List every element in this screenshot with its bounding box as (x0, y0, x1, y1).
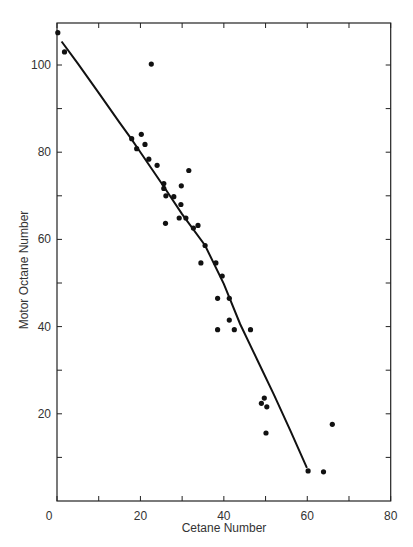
data-point (264, 404, 269, 409)
data-point (232, 327, 237, 332)
data-point (177, 215, 182, 220)
data-point (191, 226, 196, 231)
data-point (134, 146, 139, 151)
data-point (179, 183, 184, 188)
data-point (248, 327, 253, 332)
x-tick-label: 80 (384, 509, 398, 523)
y-tick-label: 80 (38, 145, 52, 159)
data-point (263, 430, 268, 435)
fit-line-path (62, 42, 307, 468)
data-point (129, 136, 134, 141)
data-point (149, 62, 154, 67)
data-point (259, 401, 264, 406)
data-point (203, 243, 208, 248)
x-tick-label: 20 (134, 509, 148, 523)
data-point (142, 142, 147, 147)
x-tick-label: 60 (301, 509, 315, 523)
data-point (62, 49, 67, 54)
scatter-chart: 020406080 20406080100 Cetane Number Moto… (0, 0, 413, 547)
data-point (161, 181, 166, 186)
data-point (330, 422, 335, 427)
y-tick-label: 60 (38, 232, 52, 246)
data-points (55, 30, 335, 474)
data-point (195, 223, 200, 228)
data-point (215, 296, 220, 301)
data-point (163, 193, 168, 198)
y-tick-label: 100 (31, 58, 51, 72)
data-point (227, 318, 232, 323)
data-point (139, 132, 144, 137)
fitted-curve (62, 42, 307, 468)
data-point (146, 157, 151, 162)
data-point (183, 215, 188, 220)
data-point (227, 296, 232, 301)
x-tick-label: 0 (46, 509, 53, 523)
data-point (55, 30, 60, 35)
x-axis-ticks: 020406080 (46, 23, 398, 523)
y-tick-label: 40 (38, 320, 52, 334)
data-point (213, 260, 218, 265)
data-point (306, 468, 311, 473)
data-point (321, 469, 326, 474)
y-axis-label: Motor Octane Number (17, 211, 31, 330)
data-point (178, 202, 183, 207)
data-point (155, 163, 160, 168)
y-tick-label: 20 (38, 407, 52, 421)
data-point (161, 186, 166, 191)
data-point (262, 396, 267, 401)
plot-frame (57, 23, 391, 501)
data-point (215, 327, 220, 332)
data-point (171, 194, 176, 199)
x-axis-label: Cetane Number (182, 521, 267, 535)
data-point (198, 260, 203, 265)
data-point (186, 168, 191, 173)
data-point (163, 221, 168, 226)
data-point (220, 273, 225, 278)
